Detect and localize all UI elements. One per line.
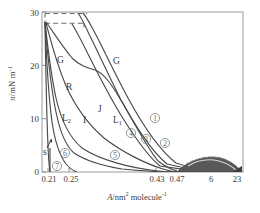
x-axis-unit-tail-exponent: -1 [162,191,167,197]
y-axis-symbol: π [7,96,17,100]
x-tick-2: 0.43 [150,174,165,184]
x-tick-0: 0.21 [42,174,57,184]
svg-text:20: 20 [30,61,40,71]
x-tick-4: 6 [209,174,213,184]
phase-diagram-svg: 0 10 20 30 0.21 0.25 0.43 0.47 6 23 [0,0,260,213]
y-axis-unit: /mN m [7,71,17,96]
svg-text:6: 6 [63,149,67,158]
svg-text:4: 4 [129,129,133,138]
x-tick-labels: 0.21 0.25 0.43 0.47 6 23 [42,174,242,184]
y-tick-labels: 0 10 20 30 [30,8,40,178]
x-tick-5: 23 [233,174,242,184]
label-J: J [98,104,102,114]
svg-text:0: 0 [35,167,40,177]
svg-text:30: 30 [30,8,40,18]
label-G-right: G [113,56,120,66]
x-axis-unit-tail: molecule [129,192,162,202]
plot-frame [42,12,243,172]
label-S: s [43,147,47,157]
x-tick-3: 0.47 [170,174,185,184]
y-axis-title: π/mN m-1 [7,53,18,113]
x-tick-1: 0.25 [64,174,79,184]
x-axis-unit: /nm [112,192,125,202]
x-axis-title: A/nm2 molecule-1 [72,191,202,202]
svg-text:5: 5 [113,151,117,160]
svg-text:7: 7 [55,162,59,171]
chart-figure: 0 10 20 30 0.21 0.25 0.43 0.47 6 23 [0,0,260,213]
svg-text:2: 2 [163,139,167,148]
label-G-left: G [57,55,64,65]
y-axis-unit-exponent: -1 [7,66,13,71]
svg-text:3: 3 [144,135,148,144]
svg-text:1: 1 [153,114,157,123]
label-I: I [83,115,86,125]
label-R: R [66,82,73,92]
svg-text:10: 10 [30,114,40,124]
